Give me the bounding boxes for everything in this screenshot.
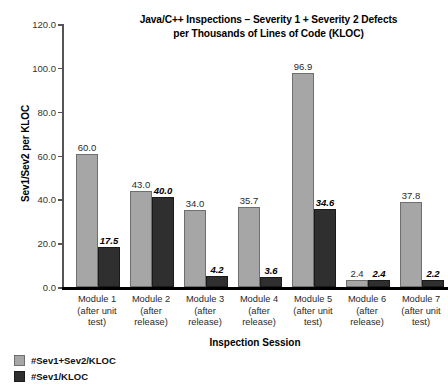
category-label-line: release) <box>340 317 394 329</box>
y-tick-label: 100.0 <box>32 62 56 73</box>
y-tick-label: 20.0 <box>38 238 57 249</box>
category-label-line: (after <box>178 306 232 318</box>
bar[interactable]: 60.0 <box>76 154 98 288</box>
legend-label: #Sev1/KLOC <box>31 371 88 382</box>
bar-value-label: 17.5 <box>100 235 119 246</box>
x-axis-category-label: Module 1(after unittest) <box>70 294 124 329</box>
category-label-line: test) <box>286 317 340 329</box>
x-axis-title: Inspection Session <box>62 337 448 348</box>
category-label-line: Module 7 <box>394 294 448 306</box>
bar[interactable]: 2.4 <box>368 280 390 287</box>
x-axis-category-label: Module 3(afterrelease) <box>178 294 232 329</box>
x-axis-category-label: Module 2(afterrelease) <box>124 294 178 329</box>
y-tick-mark <box>58 156 62 158</box>
bar-value-label: 37.8 <box>402 190 421 201</box>
bar-value-label: 40.0 <box>154 185 173 196</box>
bar-value-label: 60.0 <box>78 142 97 153</box>
category-label-line: release) <box>124 317 178 329</box>
x-axis-category-label: Module 5(after unittest) <box>286 294 340 329</box>
bar[interactable]: 17.5 <box>98 247 120 287</box>
bar-chart: Java/C++ Inspections – Severity 1 + Seve… <box>0 0 448 386</box>
y-tick-label: 60.0 <box>38 150 57 161</box>
bar-value-label: 43.0 <box>132 179 151 190</box>
category-label-line: (after <box>340 306 394 318</box>
bar[interactable]: 35.7 <box>238 207 260 287</box>
category-label-line: test) <box>394 317 448 329</box>
bar-value-label: 96.9 <box>294 61 313 72</box>
bar-value-label: 34.0 <box>186 198 205 209</box>
y-tick-label: 80.0 <box>38 106 57 117</box>
bar[interactable]: 34.6 <box>314 209 336 287</box>
category-label-line: Module 5 <box>286 294 340 306</box>
plot-area: 0.020.040.060.080.0100.0120.0 60.017.543… <box>62 24 448 290</box>
category-label-line: (after <box>124 306 178 318</box>
bar-group: 96.934.6 <box>292 24 334 287</box>
bar-group: 37.82.2 <box>400 24 442 287</box>
bar[interactable]: 37.8 <box>400 202 422 287</box>
x-axis-category-label: Module 4(afterrelease) <box>232 294 286 329</box>
x-axis-category-labels: Module 1(after unittest)Module 2(afterre… <box>62 294 448 334</box>
legend-item[interactable]: #Sev1+Sev2/KLOC <box>14 352 116 368</box>
category-label-line: (after <box>232 306 286 318</box>
bar-group: 34.04.2 <box>184 24 226 287</box>
category-label-line: Module 4 <box>232 294 286 306</box>
category-label-line: (after unit <box>70 306 124 318</box>
bar-group: 2.42.4 <box>346 24 388 287</box>
bar[interactable]: 3.6 <box>260 277 282 287</box>
bar-value-label: 2.4 <box>372 268 385 279</box>
bar[interactable]: 34.0 <box>184 210 206 287</box>
bar-value-label: 3.6 <box>264 265 277 276</box>
bar[interactable]: 2.4 <box>346 280 368 287</box>
category-label-line: Module 1 <box>70 294 124 306</box>
bar-group: 60.017.5 <box>76 24 118 287</box>
bar-value-label: 34.6 <box>316 197 335 208</box>
x-axis-category-label: Module 6(afterrelease) <box>340 294 394 329</box>
category-label-line: Module 2 <box>124 294 178 306</box>
y-tick-mark <box>58 243 62 245</box>
y-axis-title: Sev1/Sev2 per KLOC <box>20 84 31 224</box>
x-axis-line <box>62 287 448 290</box>
legend-item[interactable]: #Sev1/KLOC <box>14 368 116 384</box>
bar-value-label: 35.7 <box>240 195 259 206</box>
y-axis-line <box>62 24 64 290</box>
bar-group: 35.73.6 <box>238 24 280 287</box>
x-axis-category-label: Module 7(after unittest) <box>394 294 448 329</box>
legend-swatch-icon <box>14 355 25 366</box>
y-tick-mark <box>58 68 62 70</box>
category-label-line: release) <box>232 317 286 329</box>
bar[interactable]: 2.2 <box>422 280 444 287</box>
category-label-line: (after unit <box>286 306 340 318</box>
bar-group: 43.040.0 <box>130 24 172 287</box>
y-tick-label: 120.0 <box>32 19 56 30</box>
chart-legend: #Sev1+Sev2/KLOC#Sev1/KLOC <box>14 352 116 384</box>
bar[interactable]: 4.2 <box>206 276 228 287</box>
y-tick-label: 40.0 <box>38 194 57 205</box>
bar-value-label: 4.2 <box>210 264 223 275</box>
category-label-line: Module 6 <box>340 294 394 306</box>
legend-label: #Sev1+Sev2/KLOC <box>31 355 116 366</box>
y-tick-mark <box>58 24 62 26</box>
y-tick-label: 0.0 <box>43 282 56 293</box>
bar-value-label: 2.2 <box>426 268 439 279</box>
bar-value-label: 2.4 <box>350 268 363 279</box>
category-label-line: test) <box>70 317 124 329</box>
bar[interactable]: 43.0 <box>130 191 152 287</box>
y-tick-mark <box>58 112 62 114</box>
category-label-line: release) <box>178 317 232 329</box>
y-tick-mark <box>58 287 62 289</box>
y-tick-mark <box>58 199 62 201</box>
legend-swatch-icon <box>14 371 25 382</box>
bar[interactable]: 96.9 <box>292 73 314 287</box>
category-label-line: (after unit <box>394 306 448 318</box>
category-label-line: Module 3 <box>178 294 232 306</box>
bar[interactable]: 40.0 <box>152 197 174 287</box>
